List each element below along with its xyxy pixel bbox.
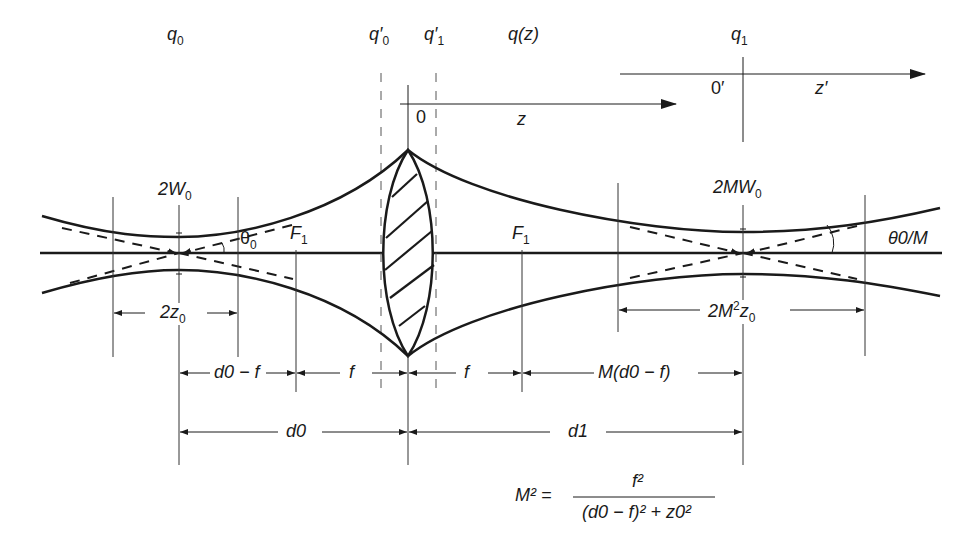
- equation-lhs: M² =: [515, 486, 552, 504]
- label-q1: q1: [731, 25, 748, 47]
- label-output-waist: 2MW0: [713, 178, 762, 200]
- label-q0-prime: q′0: [369, 25, 389, 47]
- label-input-waist: 2W0: [158, 180, 192, 202]
- label-origin-prime: 0′: [711, 79, 724, 97]
- label-input-rayleigh: 2z0: [158, 303, 188, 325]
- label-output-rayleigh: 2M2z0: [706, 300, 757, 324]
- thin-lens: [383, 150, 434, 356]
- label-qz: q(z): [508, 25, 539, 43]
- label-output-angle: θ0/M: [888, 229, 928, 247]
- label-z: z: [517, 110, 526, 128]
- theta0-arc: [222, 243, 224, 253]
- label-q1-prime: q′1: [424, 25, 444, 47]
- label-f-right: f: [464, 363, 469, 381]
- label-d1: d1: [568, 422, 588, 440]
- label-q0: q0: [167, 25, 184, 47]
- label-f-left: f: [349, 363, 354, 381]
- label-focal-right: F1: [512, 224, 530, 246]
- label-d0-minus-f: d0 − f: [214, 363, 260, 381]
- label-theta0: θ0: [240, 229, 257, 251]
- diagram-canvas: q0 q′0 q′1 q(z) q1 0 z 0′ z′ 2W0 θ0 F1 F…: [0, 0, 975, 559]
- equation-numerator: f²: [632, 472, 643, 490]
- label-origin: 0: [416, 108, 426, 126]
- label-d0: d0: [286, 422, 306, 440]
- label-z-prime: z′: [815, 79, 827, 97]
- equation-denominator: (d0 − f)² + z0²: [582, 503, 691, 521]
- label-focal-left: F1: [290, 224, 308, 246]
- beam-diagram-svg: [0, 0, 975, 559]
- label-M-d0-minus-f: M(d0 − f): [598, 363, 671, 381]
